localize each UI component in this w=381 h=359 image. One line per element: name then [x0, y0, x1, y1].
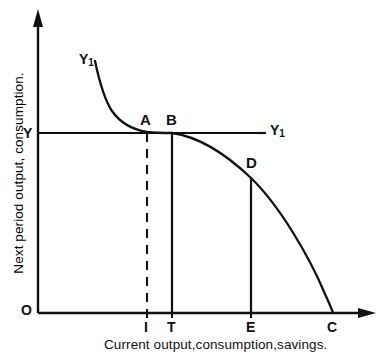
x-tick-label-C: C — [327, 320, 337, 334]
x-tick-label-E: E — [246, 320, 255, 334]
y-axis-title-wrapper: Next period output, consumption. — [9, 48, 29, 298]
plot-canvas — [0, 0, 381, 359]
origin-label: O — [21, 303, 32, 317]
curve-label-y1-left-sub: 1 — [88, 57, 94, 68]
curve-label-y1-right-sub: 1 — [279, 128, 285, 139]
point-label-B: B — [166, 112, 177, 127]
curve-label-y1-right: Y1 — [270, 123, 285, 139]
point-label-D: D — [246, 155, 257, 170]
x-axis-arrowhead — [358, 308, 376, 318]
indifference-curve — [95, 61, 172, 133]
point-label-A: A — [140, 112, 151, 127]
curve-label-y1-left-main: Y — [79, 51, 88, 67]
y-axis-arrowhead — [33, 9, 43, 27]
y-axis-title: Next period output, consumption. — [11, 72, 26, 273]
economics-diagram-figure: Next period output, consumption. Current… — [0, 0, 381, 359]
x-tick-label-I: I — [144, 320, 148, 334]
curve-label-y1-right-main: Y — [270, 122, 279, 138]
y-tick-label: Y — [23, 126, 32, 140]
x-axis-title: Current output,consumption,savings. — [104, 338, 327, 352]
x-tick-label-T: T — [167, 320, 176, 334]
curve-label-y1-left: Y1 — [79, 52, 94, 68]
